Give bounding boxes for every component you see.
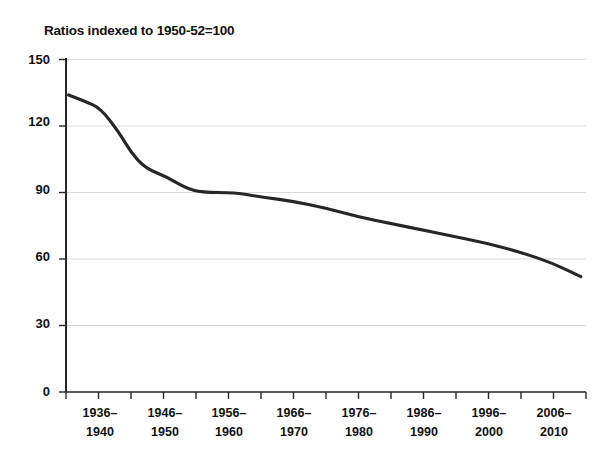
- plot-area: [0, 0, 602, 464]
- data-series-line: [69, 95, 581, 277]
- y-axis-ticks: [59, 60, 66, 393]
- x-axis-ticks: [66, 392, 586, 399]
- gridlines: [66, 60, 586, 326]
- chart-container: Ratios indexed to 1950-52=100 150 120 90…: [0, 0, 602, 464]
